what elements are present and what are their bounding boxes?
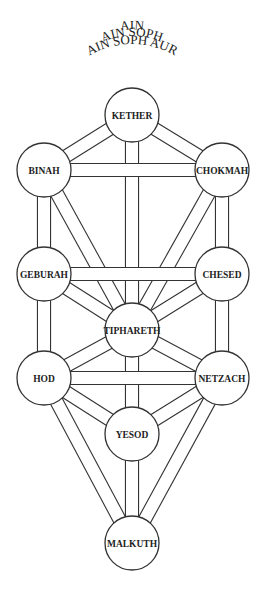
sephira-chokmah[interactable]: CHOKMAH [195,143,249,197]
sephira-label: CHESED [202,270,241,280]
title-ain-soph-aur: AIN SOPH AUR [84,32,181,58]
sephira-hod[interactable]: HOD [17,351,71,405]
sephira-netzach[interactable]: NETZACH [195,351,249,405]
sephira-label: CHOKMAH [196,166,249,176]
title-arc-group: AIN AIN SOPH AIN SOPH AUR [84,17,181,58]
sephira-label: KETHER [112,111,153,121]
sephira-label: TIPHARETH [103,326,161,336]
sephira-label: YESOD [116,430,149,440]
sephira-kether[interactable]: KETHER [105,88,159,142]
sephira-label: BINAH [28,166,60,176]
sephira-chesed[interactable]: CHESED [195,247,249,301]
tree-of-life-diagram: AIN AIN SOPH AIN SOPH AUR KETHERCHOKMAHB… [0,0,265,591]
sephira-yesod[interactable]: YESOD [105,407,159,461]
sephira-binah[interactable]: BINAH [17,143,71,197]
sephira-label: MALKUTH [107,539,158,549]
sephira-label: NETZACH [199,374,247,384]
sephira-malkuth[interactable]: MALKUTH [105,516,159,570]
sephira-geburah[interactable]: GEBURAH [17,247,71,301]
sephira-label: HOD [33,374,55,384]
sephira-label: GEBURAH [20,270,69,280]
title-ain-soph-aur-text: AIN SOPH AUR [84,32,181,58]
